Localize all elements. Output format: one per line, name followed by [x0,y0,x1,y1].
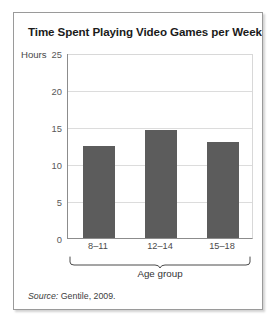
x-axis-tick-labels: 8–1112–1415–18 [67,241,253,255]
y-axis-tick-labels: 0510152025 [14,54,62,239]
gridline [68,128,252,129]
x-tick-label: 15–18 [191,241,253,251]
gridline [68,54,252,55]
y-tick-label: 0 [57,234,62,245]
y-tick-label: 15 [52,123,62,134]
y-tick-label: 20 [52,86,62,97]
bar [83,146,115,238]
source-label: Source: [28,291,58,301]
bar [145,130,177,238]
bar [207,142,239,238]
plot-area [67,54,253,239]
y-tick-label: 10 [52,160,62,171]
source-citation: Gentile, 2009. [61,291,116,301]
y-tick-label: 5 [57,197,62,208]
chart-title: Time Spent Playing Video Games per Week [28,25,254,38]
x-axis-title: Age group [67,268,253,279]
gridline [68,91,252,92]
x-tick-label: 12–14 [129,241,191,251]
source-note: Source: Gentile, 2009. [28,291,116,301]
x-tick-label: 8–11 [67,241,129,251]
y-tick-label: 25 [52,49,62,60]
figure-card: Time Spent Playing Video Games per Week … [13,12,263,310]
